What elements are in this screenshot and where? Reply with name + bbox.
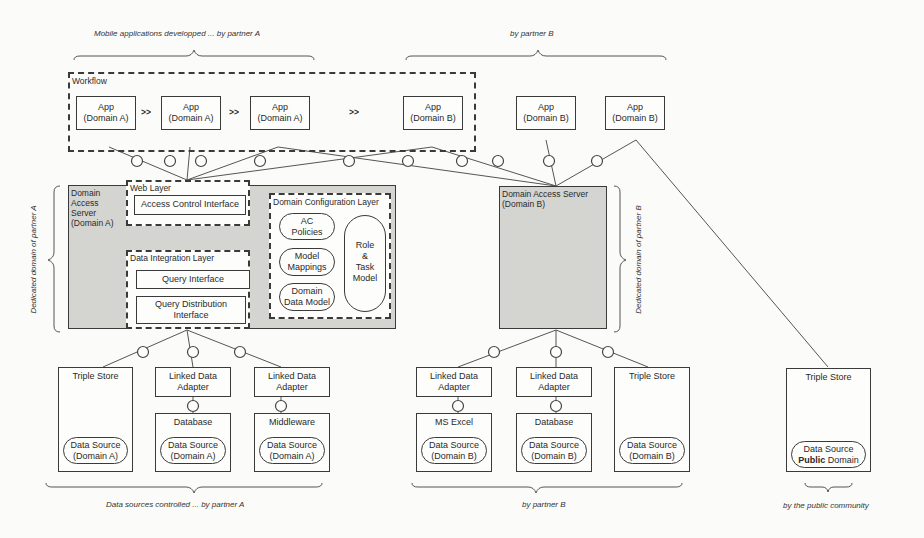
app-domain-a-3[interactable]: App (Domain A): [250, 96, 310, 130]
linked-data-adapter-a-1[interactable]: Linked DataAdapter: [155, 367, 231, 397]
data-source-b-database[interactable]: Data Source(Domain B): [521, 437, 587, 464]
data-source-b-ms-excel[interactable]: Data Source(Domain B): [421, 437, 487, 464]
linked-data-adapter-b-1[interactable]: Linked DataAdapter: [416, 367, 492, 397]
role-task-model[interactable]: Role & Task Model: [344, 215, 386, 312]
data-source-a-middleware[interactable]: Data Source(Domain A): [259, 437, 325, 464]
data-source-a-database[interactable]: Data Source(Domain A): [160, 437, 226, 464]
public-domain-label: Public Domain: [792, 455, 865, 466]
brace-label-domain-partner-a: Dedicated domain of partner A: [29, 185, 38, 335]
query-interface[interactable]: Query Interface: [136, 270, 250, 289]
source-header: Triple Store: [615, 371, 689, 382]
source-header: Triple Store: [59, 371, 132, 382]
server-b-label: Domain Access Server (Domain B): [502, 189, 588, 209]
source-header: Database: [517, 417, 591, 428]
app-title: App: [517, 102, 575, 113]
data-source-b-triple-store[interactable]: Data Source(Domain B): [619, 437, 685, 464]
app-title: App: [162, 102, 220, 113]
brace-label-sources-public: by the public community: [783, 501, 869, 510]
app-domain: (Domain A): [162, 113, 220, 124]
linked-data-adapter-a-2[interactable]: Linked DataAdapter: [254, 367, 330, 397]
workflow-sequence-arrow: >>: [349, 107, 359, 117]
app-domain-a-1[interactable]: App (Domain A): [76, 96, 136, 130]
app-title: App: [251, 102, 309, 113]
linked-data-adapter-b-2[interactable]: Linked DataAdapter: [516, 367, 592, 397]
server-a-label: Domain Access Server (Domain A): [71, 188, 114, 228]
source-header: Triple Store: [787, 372, 870, 383]
workflow-label: Workflow: [72, 76, 107, 86]
brace-label-sources-partner-a: Data sources controlled ... by partner A: [106, 500, 244, 509]
workflow-sequence-arrow: >>: [229, 107, 239, 117]
data-source-public[interactable]: Data Source Public Domain: [791, 441, 866, 468]
brace-label-domain-partner-b: Dedicated domain of partner B: [634, 185, 643, 335]
app-title: App: [404, 102, 462, 113]
app-title: App: [606, 102, 664, 113]
app-domain: (Domain A): [251, 113, 309, 124]
app-domain: (Domain B): [404, 113, 462, 124]
data-integration-layer-label: Data Integration Layer: [130, 253, 214, 263]
domain-data-model[interactable]: Domain Data Model: [279, 283, 335, 311]
brace-label-apps-partner-a: Mobile applications developped ... by pa…: [94, 29, 260, 38]
domain-configuration-layer-label: Domain Configuration Layer: [273, 197, 379, 207]
web-layer-label: Web Layer: [130, 183, 171, 193]
brace-label-sources-partner-b: by partner B: [522, 500, 566, 509]
data-source-a-triple-store[interactable]: Data Source(Domain A): [63, 437, 128, 464]
source-header: MS Excel: [417, 417, 491, 428]
model-mappings[interactable]: Model Mappings: [279, 248, 335, 276]
source-header: Database: [156, 417, 230, 428]
app-domain-b-workflow[interactable]: App (Domain B): [403, 96, 463, 130]
access-control-interface[interactable]: Access Control Interface: [134, 195, 246, 215]
app-title: App: [77, 102, 135, 113]
app-domain: (Domain B): [606, 113, 664, 124]
domain-access-server-b: Domain Access Server (Domain B): [499, 186, 607, 329]
source-header: Middleware: [255, 417, 329, 428]
app-domain-a-2[interactable]: App (Domain A): [161, 96, 221, 130]
workflow-sequence-arrow: >>: [141, 107, 151, 117]
app-domain: (Domain A): [77, 113, 135, 124]
app-domain: (Domain B): [517, 113, 575, 124]
ac-policies[interactable]: AC Policies: [279, 213, 335, 240]
brace-label-apps-partner-b: by partner B: [510, 29, 554, 38]
app-domain-b-2[interactable]: App (Domain B): [605, 96, 665, 130]
app-domain-b-1[interactable]: App (Domain B): [516, 96, 576, 130]
query-distribution-interface[interactable]: Query Distribution Interface: [136, 296, 246, 324]
